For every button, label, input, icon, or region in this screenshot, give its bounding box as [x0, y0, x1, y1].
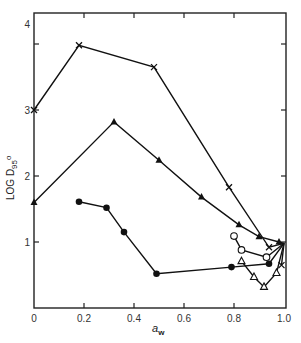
series-line [34, 122, 284, 243]
dot-marker [76, 198, 83, 205]
y-axis-title: LOG D95o [4, 155, 19, 200]
data-series [31, 42, 285, 289]
triangle-marker [111, 118, 118, 125]
open-triangle-marker [273, 269, 280, 276]
open-circle-marker [263, 254, 270, 261]
y-tick-label: 3 [24, 105, 30, 116]
x-tick-label: 0.2 [77, 313, 91, 324]
y-tick-label: 2 [24, 171, 30, 182]
open-triangle-marker [238, 257, 245, 264]
dot-marker [228, 264, 235, 271]
chart: 00.20.40.60.81.01234 aw LOG D95o [0, 0, 301, 343]
x-marker [226, 184, 232, 190]
x-tick-label: 0.6 [177, 313, 191, 324]
dot-marker [266, 260, 273, 267]
triangle-marker [156, 156, 163, 163]
y-tick-label: 4 [24, 19, 30, 30]
dot-marker [103, 204, 110, 211]
y-tick-label: 1 [24, 237, 30, 248]
x-tick-label: 0.4 [127, 313, 141, 324]
series-filled-circle [76, 198, 284, 277]
x-tick-label: 1.0 [277, 313, 291, 324]
x-axis-title: aw [152, 322, 165, 337]
open-circle-marker [238, 247, 245, 254]
dot-marker [121, 229, 128, 236]
x-tick-label: 0 [31, 313, 37, 324]
series-line [79, 202, 284, 274]
open-circle-marker [231, 233, 238, 240]
triangle-marker [236, 221, 243, 228]
series-cross [31, 42, 285, 268]
dot-marker [153, 270, 160, 277]
series-line [34, 45, 284, 265]
x-tick-label: 0.8 [227, 313, 241, 324]
series-filled-triangle [31, 118, 285, 245]
